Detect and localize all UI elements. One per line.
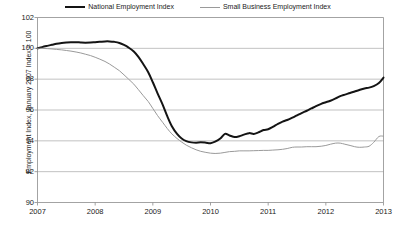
employment-index-chart: National Employment Index Small Business… <box>0 0 396 225</box>
plot-area <box>0 0 396 225</box>
axis-ticks <box>35 18 384 206</box>
data-series <box>38 41 384 153</box>
series-line-national <box>38 41 384 143</box>
